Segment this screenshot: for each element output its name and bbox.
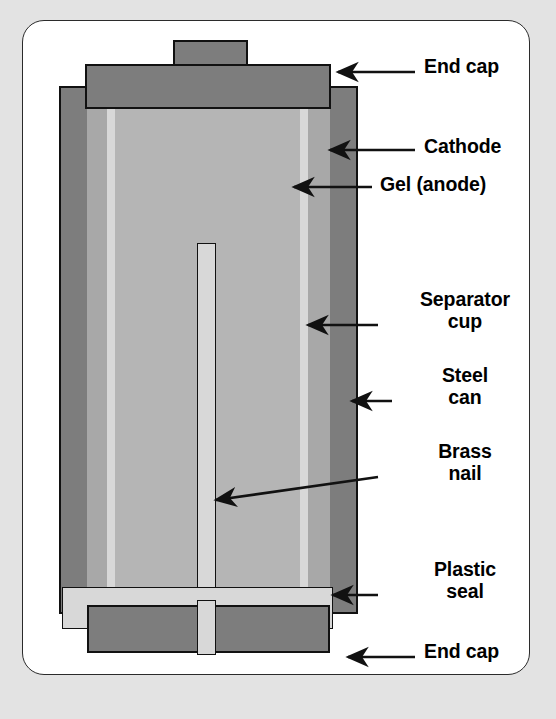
battery-cutaway-diagram: End cap Cathode Gel (anode) Separator cu… bbox=[0, 0, 556, 719]
separator-cup-right bbox=[300, 108, 308, 604]
label-separator-cup: Separator cup bbox=[382, 289, 548, 333]
figure-canvas: End cap Cathode Gel (anode) Separator cu… bbox=[0, 0, 556, 719]
label-end-cap-bottom: End cap bbox=[424, 641, 548, 663]
brass-nail-tip bbox=[197, 600, 216, 655]
label-steel-can: Steel can bbox=[382, 365, 548, 409]
label-plastic-seal: Plastic seal bbox=[382, 559, 548, 603]
label-gel-anode: Gel (anode) bbox=[380, 174, 552, 196]
label-cathode: Cathode bbox=[424, 136, 548, 158]
label-end-cap-top: End cap bbox=[424, 56, 548, 78]
top-end-cap bbox=[85, 64, 331, 109]
label-brass-nail: Brass nail bbox=[382, 441, 548, 485]
separator-cup-left bbox=[107, 108, 115, 604]
